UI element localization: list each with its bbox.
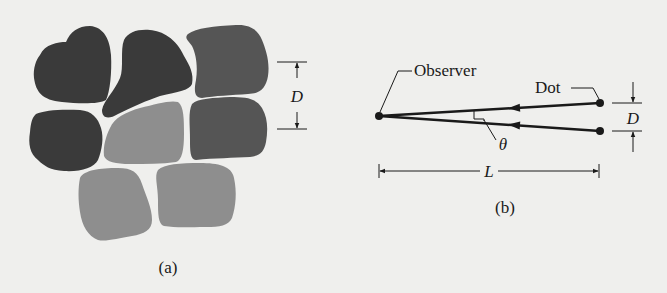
- blob-middle-left: [29, 110, 102, 172]
- panel-a-dimension-label: D: [290, 87, 304, 106]
- dot-leader-line: [571, 88, 599, 99]
- figure-canvas: D (a) θ Observer Dot L: [0, 0, 667, 293]
- panel-a-caption: (a): [159, 258, 178, 277]
- angle-label: θ: [499, 135, 507, 154]
- observer-leader-line: [380, 71, 412, 112]
- distance-label: L: [483, 162, 493, 181]
- angle-marker: [474, 111, 484, 121]
- blob-bottom-right: [156, 163, 236, 227]
- dot-bottom: [596, 127, 604, 135]
- blob-bottom-left: [79, 168, 153, 241]
- arrowhead-top-icon: [508, 104, 520, 113]
- blob-top-left: [34, 26, 111, 103]
- dot-top: [596, 99, 604, 107]
- figure: D (a) θ Observer Dot L: [0, 0, 667, 293]
- separation-label: D: [626, 109, 640, 128]
- dot-label: Dot: [535, 78, 561, 97]
- panel-b-caption: (b): [495, 198, 515, 217]
- observer-label: Observer: [414, 61, 477, 80]
- blob-top-right: [186, 25, 268, 98]
- sight-line-top: [379, 103, 600, 116]
- panel-a: D (a): [29, 25, 307, 277]
- observer-dot: [375, 112, 383, 120]
- panel-b: θ Observer Dot L D (b): [375, 61, 642, 217]
- blob-middle-right: [190, 97, 268, 160]
- arrowhead-bottom-icon: [508, 121, 521, 130]
